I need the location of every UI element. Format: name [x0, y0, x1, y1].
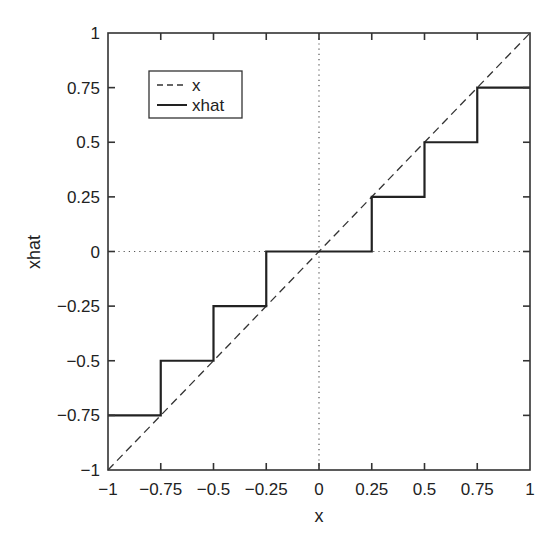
y-tick-label: 0 — [91, 243, 100, 262]
y-tick-label: −0.75 — [57, 406, 100, 425]
x-tick-label: 0.5 — [413, 480, 437, 499]
y-tick-label: 0.5 — [76, 133, 100, 152]
x-tick-label: −0.25 — [245, 480, 288, 499]
y-tick-label: −1 — [81, 461, 100, 480]
y-tick-labels: −1−0.75−0.5−0.2500.250.50.751 — [57, 24, 100, 480]
legend: x xhat — [149, 71, 242, 118]
x-tick-label: 0 — [314, 480, 323, 499]
legend-label-xhat: xhat — [192, 96, 224, 115]
x-tick-label: 0.75 — [461, 480, 494, 499]
y-tick-label: −0.5 — [66, 352, 100, 371]
quantizer-chart: −1−0.75−0.5−0.2500.250.50.751 −1−0.75−0.… — [0, 0, 559, 544]
x-tick-label: −0.5 — [197, 480, 231, 499]
legend-label-x: x — [192, 76, 201, 95]
x-tick-label: −1 — [98, 480, 117, 499]
x-tick-labels: −1−0.75−0.5−0.2500.250.50.751 — [98, 480, 534, 499]
x-tick-label: 0.25 — [355, 480, 388, 499]
x-tick-label: 1 — [525, 480, 534, 499]
x-axis-label: x — [315, 506, 324, 526]
y-tick-label: 0.25 — [67, 188, 100, 207]
y-tick-label: 0.75 — [67, 79, 100, 98]
y-axis-label: xhat — [24, 235, 44, 269]
y-tick-label: −0.25 — [57, 297, 100, 316]
y-tick-label: 1 — [91, 24, 100, 43]
x-tick-label: −0.75 — [139, 480, 182, 499]
